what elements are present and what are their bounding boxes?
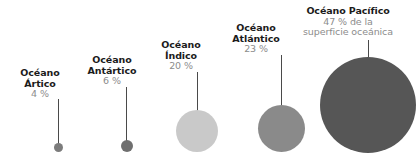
label-oceano-artico: Océano Ártico 4 % bbox=[8, 68, 72, 100]
bubble-oceano-antartico bbox=[121, 140, 133, 152]
label-value-note-pacifico: superficie oceánica bbox=[278, 27, 418, 38]
bubble-oceano-indico bbox=[176, 110, 218, 152]
ocean-surface-bubble-chart: Océano Ártico 4 % Océano Antártico 6 % O… bbox=[0, 0, 420, 163]
bubble-oceano-pacifico bbox=[320, 57, 416, 153]
label-value-indico: 20 % bbox=[150, 61, 212, 72]
bubble-oceano-atlantico bbox=[258, 105, 305, 152]
label-value-antartico: 6 % bbox=[78, 76, 146, 87]
leader-line-antartico bbox=[126, 87, 127, 142]
leader-line-artico bbox=[58, 99, 59, 144]
bubble-oceano-artico bbox=[54, 143, 63, 152]
label-oceano-antartico: Océano Antártico 6 % bbox=[78, 55, 146, 87]
label-value-atlantico: 23 % bbox=[222, 44, 290, 55]
leader-line-atlantico bbox=[281, 55, 282, 112]
label-oceano-indico: Océano Índico 20 % bbox=[150, 40, 212, 72]
label-value-artico: 4 % bbox=[8, 89, 72, 100]
label-oceano-pacifico: Océano Pacífico 47 % de la superficie oc… bbox=[278, 6, 418, 38]
